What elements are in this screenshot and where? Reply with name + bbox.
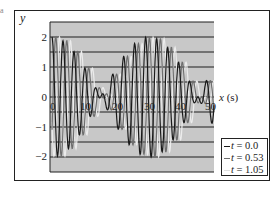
legend-swatch-gray xyxy=(224,158,230,159)
legend-item-t105: t = 1.05 xyxy=(224,164,267,176)
y-tick-neg1: −1 xyxy=(33,122,47,133)
y-axis-label: y xyxy=(20,11,25,26)
legend-var: t xyxy=(231,164,234,175)
legend-var: t xyxy=(231,152,234,163)
x-axis-var: x xyxy=(219,91,224,103)
x-tick-20: 20 xyxy=(112,101,123,112)
legend-value: = 0.0 xyxy=(237,140,259,151)
legend: t = 0.0 t = 0.53 t = 1.05 xyxy=(221,138,268,176)
legend-item-t0: t = 0.0 xyxy=(224,140,267,152)
x-axis-label: x (s) xyxy=(219,91,238,103)
legend-item-t053: t = 0.53 xyxy=(224,152,267,164)
x-tick-50: 50 xyxy=(205,101,216,112)
y-tick-neg2: −2 xyxy=(33,151,47,162)
x-axis-unit: (s) xyxy=(227,91,239,103)
legend-value: = 1.05 xyxy=(237,164,264,175)
legend-value: = 0.53 xyxy=(237,152,264,163)
legend-swatch-light xyxy=(224,170,230,171)
x-tick-10: 10 xyxy=(80,101,91,112)
x-tick-30: 30 xyxy=(144,101,155,112)
x-tick-40: 40 xyxy=(175,101,186,112)
x-tick-0: 0 xyxy=(50,101,56,112)
legend-swatch-dark xyxy=(224,146,230,147)
legend-var: t xyxy=(231,140,234,151)
y-tick-2: 2 xyxy=(33,32,47,43)
y-tick-1: 1 xyxy=(33,62,47,73)
y-tick-0: 0 xyxy=(33,92,47,103)
